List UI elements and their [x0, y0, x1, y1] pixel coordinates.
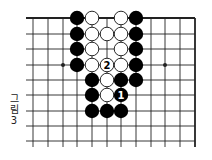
- white-stone: [100, 73, 114, 87]
- black-stone: [85, 88, 99, 102]
- black-stone: [114, 73, 128, 87]
- black-stone: [70, 27, 84, 41]
- move-number-label: 2: [104, 60, 111, 71]
- caption-number: 3: [11, 115, 17, 126]
- white-stone: [114, 42, 128, 56]
- white-stone: [100, 88, 114, 102]
- black-stone: [85, 104, 99, 118]
- black-stone: [129, 42, 143, 56]
- black-stone: [70, 58, 84, 72]
- white-stone: [114, 27, 128, 41]
- black-stone: [100, 104, 114, 118]
- white-stone: [85, 11, 99, 25]
- star-point-icon: [163, 63, 167, 67]
- black-stone: [129, 27, 143, 41]
- white-stone: [114, 58, 128, 72]
- black-stone: [129, 11, 143, 25]
- black-stone: 1: [114, 88, 128, 102]
- move-number-label: 1: [118, 90, 125, 101]
- black-stone: [114, 104, 128, 118]
- white-stone: [85, 27, 99, 41]
- white-stone: [100, 27, 114, 41]
- black-stone: [85, 73, 99, 87]
- caption-char-2: 림: [10, 104, 19, 115]
- black-stone: [70, 11, 84, 25]
- figure-caption: 그 림 3: [7, 93, 21, 126]
- white-stone: 2: [100, 58, 114, 72]
- white-stone: [114, 11, 128, 25]
- black-stone: [70, 42, 84, 56]
- go-board: 21: [0, 0, 212, 160]
- star-point-icon: [61, 63, 65, 67]
- white-stone: [85, 58, 99, 72]
- white-stone: [85, 42, 99, 56]
- stones: 21: [70, 11, 143, 118]
- black-stone: [129, 73, 143, 87]
- caption-char-1: 그: [10, 93, 19, 104]
- black-stone: [129, 58, 143, 72]
